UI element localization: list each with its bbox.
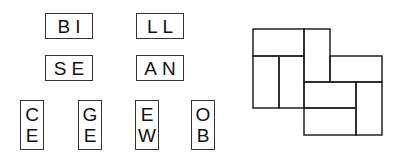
grid-cell-6	[356, 82, 382, 135]
grid-cell-0	[253, 29, 304, 56]
grid-cell-7	[304, 108, 356, 135]
grid-cell-5	[304, 82, 356, 108]
grid-cell-2	[253, 56, 279, 108]
grid-cell-4	[330, 56, 382, 82]
grid-cell-1	[304, 29, 330, 82]
grid-cell-3	[279, 56, 304, 108]
domino-grid	[0, 0, 398, 159]
